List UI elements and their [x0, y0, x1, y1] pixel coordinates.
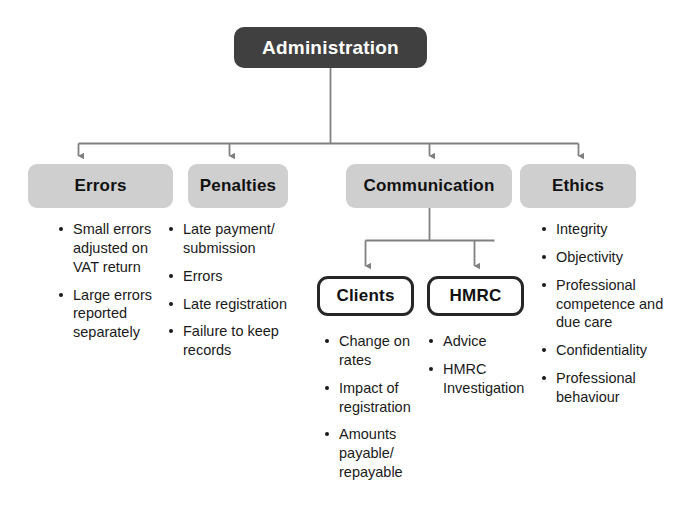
list-penalties: Late payment/ submission Errors Late reg… [168, 220, 298, 369]
list-item: Advice [428, 332, 522, 351]
node-errors[interactable]: Errors [28, 164, 173, 208]
list-item: Errors [168, 267, 298, 286]
node-communication[interactable]: Communication [346, 164, 512, 208]
node-clients[interactable]: Clients [317, 276, 414, 316]
list-item: Failure to keep records [168, 322, 298, 360]
list-hmrc: Advice HMRC Investigation [428, 332, 522, 407]
list-item: Integrity [541, 220, 667, 239]
list-item: Change on rates [324, 332, 416, 370]
list-ethics: Integrity Objectivity Professional compe… [541, 220, 667, 416]
node-penalties[interactable]: Penalties [188, 164, 288, 208]
node-hmrc[interactable]: HMRC [427, 276, 524, 316]
list-errors: Small errors adjusted on VAT return Larg… [58, 220, 170, 351]
list-item: Professional competence and due care [541, 276, 667, 333]
list-item: Amounts payable/ repayable [324, 425, 416, 482]
diagram-canvas: Administration Errors Penalties Communic… [0, 0, 696, 520]
list-item: Confidentiality [541, 341, 667, 360]
list-item: Objectivity [541, 248, 667, 267]
list-item: Large errors reported separately [58, 286, 170, 343]
list-clients: Change on rates Impact of registration A… [324, 332, 416, 491]
list-item: HMRC Investigation [428, 360, 522, 398]
node-ethics[interactable]: Ethics [520, 164, 636, 208]
list-item: Small errors adjusted on VAT return [58, 220, 170, 277]
list-item: Impact of registration [324, 379, 416, 417]
list-item: Late payment/ submission [168, 220, 298, 258]
node-administration[interactable]: Administration [234, 27, 427, 68]
list-item: Professional behaviour [541, 369, 667, 407]
list-item: Late registration [168, 295, 298, 314]
